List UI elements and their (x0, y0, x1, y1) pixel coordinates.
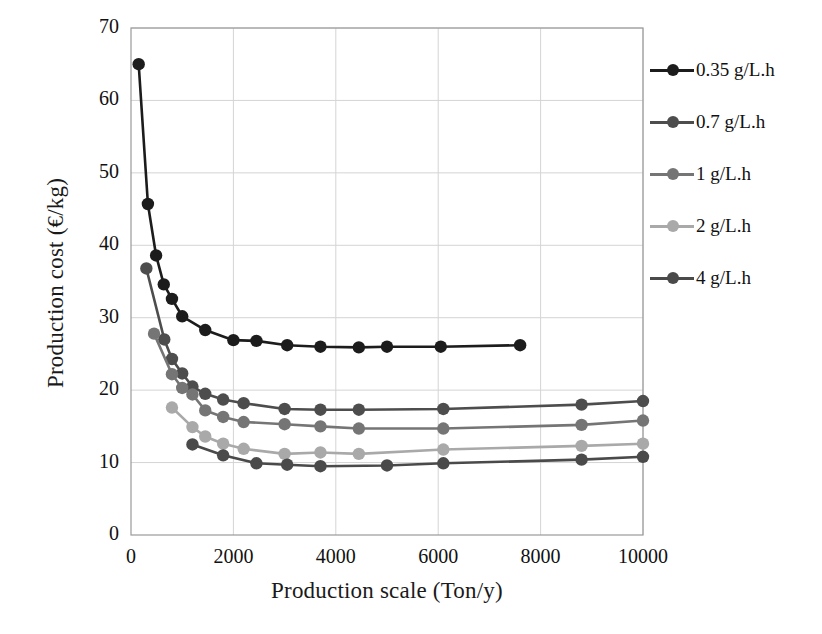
data-point-marker (148, 327, 160, 339)
data-point-marker (186, 421, 198, 433)
data-point-marker (437, 403, 449, 415)
data-point-marker (637, 451, 649, 463)
series-line (146, 268, 643, 409)
x-tick-label: 8000 (501, 545, 581, 568)
data-point-marker (353, 448, 365, 460)
x-axis-title: Production scale (Ton/y) (131, 578, 643, 604)
data-point-marker (437, 457, 449, 469)
data-point-marker (435, 340, 447, 352)
legend-label: 0.35 g/L.h (696, 59, 775, 81)
data-point-marker (437, 443, 449, 455)
legend-item-1[interactable]: 0.35 g/L.h (650, 44, 820, 96)
legend-swatch-icon (650, 166, 694, 182)
series-2 (140, 262, 649, 416)
data-point-marker (314, 420, 326, 432)
data-point-marker (176, 310, 188, 322)
data-point-marker (199, 404, 211, 416)
data-point-marker (575, 440, 587, 452)
x-tick-label: 0 (91, 545, 171, 568)
legend-dot-icon (667, 272, 679, 284)
data-point-marker (381, 459, 393, 471)
data-point-marker (217, 449, 229, 461)
chart-legend: 0.35 g/L.h0.7 g/L.h1 g/L.h2 g/L.h4 g/L.h (650, 44, 820, 304)
data-point-marker (353, 422, 365, 434)
legend-swatch-icon (650, 218, 694, 234)
legend-swatch-icon (650, 62, 694, 78)
series-1 (132, 58, 526, 354)
data-point-marker (199, 388, 211, 400)
x-tick-label: 2000 (193, 545, 273, 568)
data-point-marker (217, 393, 229, 405)
legend-dot-icon (667, 168, 679, 180)
data-point-marker (575, 419, 587, 431)
data-point-marker (199, 430, 211, 442)
y-tick-label: 0 (59, 522, 119, 545)
data-point-marker (353, 341, 365, 353)
data-point-marker (237, 397, 249, 409)
data-point-marker (237, 443, 249, 455)
legend-swatch-icon (650, 114, 694, 130)
data-point-marker (250, 457, 262, 469)
data-point-marker (514, 339, 526, 351)
data-point-marker (142, 198, 154, 210)
data-point-marker (186, 438, 198, 450)
data-point-marker (166, 368, 178, 380)
data-point-marker (278, 403, 290, 415)
legend-label: 2 g/L.h (696, 215, 751, 237)
data-point-marker (314, 340, 326, 352)
y-tick-label: 10 (59, 450, 119, 473)
data-point-marker (381, 340, 393, 352)
data-point-marker (199, 324, 211, 336)
data-point-marker (637, 438, 649, 450)
y-tick-label: 20 (59, 377, 119, 400)
data-point-marker (281, 459, 293, 471)
data-point-marker (166, 293, 178, 305)
data-point-marker (176, 382, 188, 394)
y-tick-label: 70 (59, 15, 119, 38)
data-point-marker (314, 404, 326, 416)
data-point-marker (166, 401, 178, 413)
series-line (139, 64, 520, 347)
legend-item-2[interactable]: 0.7 g/L.h (650, 96, 820, 148)
data-point-marker (314, 460, 326, 472)
y-tick-label: 30 (59, 305, 119, 328)
legend-item-4[interactable]: 2 g/L.h (650, 200, 820, 252)
y-tick-label: 60 (59, 87, 119, 110)
data-point-marker (314, 446, 326, 458)
data-point-marker (278, 448, 290, 460)
legend-swatch-icon (650, 270, 694, 286)
x-tick-label: 6000 (398, 545, 478, 568)
series-3 (148, 327, 649, 434)
legend-label: 1 g/L.h (696, 163, 751, 185)
data-point-marker (217, 411, 229, 423)
data-point-marker (637, 414, 649, 426)
data-point-marker (353, 404, 365, 416)
production-cost-chart-figure: Production cost (€/kg) Production scale … (0, 0, 822, 634)
data-point-marker (250, 335, 262, 347)
data-point-marker (437, 422, 449, 434)
data-point-marker (217, 438, 229, 450)
data-point-marker (227, 334, 239, 346)
y-tick-label: 40 (59, 232, 119, 255)
data-point-marker (150, 249, 162, 261)
legend-label: 0.7 g/L.h (696, 111, 765, 133)
y-tick-label: 50 (59, 160, 119, 183)
data-point-marker (140, 262, 152, 274)
data-point-marker (186, 388, 198, 400)
legend-dot-icon (667, 64, 679, 76)
x-tick-label: 4000 (296, 545, 376, 568)
data-point-marker (237, 416, 249, 428)
data-point-marker (575, 398, 587, 410)
data-point-marker (132, 58, 144, 70)
legend-label: 4 g/L.h (696, 267, 751, 289)
data-point-marker (637, 395, 649, 407)
legend-item-5[interactable]: 4 g/L.h (650, 252, 820, 304)
legend-dot-icon (667, 116, 679, 128)
legend-dot-icon (667, 220, 679, 232)
data-point-marker (281, 339, 293, 351)
data-point-marker (158, 278, 170, 290)
x-tick-label: 10000 (603, 545, 683, 568)
data-point-marker (278, 418, 290, 430)
data-point-marker (575, 453, 587, 465)
legend-item-3[interactable]: 1 g/L.h (650, 148, 820, 200)
